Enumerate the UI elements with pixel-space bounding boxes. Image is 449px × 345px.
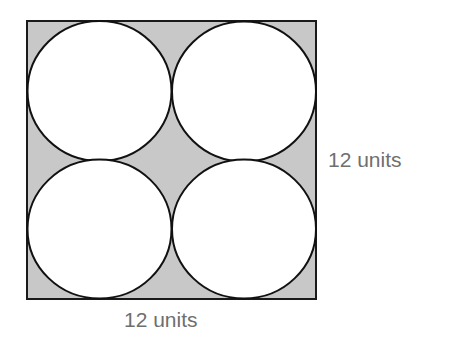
side-length-label-bottom: 12 units — [124, 308, 198, 332]
circle-bottom-right — [172, 160, 316, 299]
side-length-label-right: 12 units — [328, 148, 402, 172]
square-with-circles-figure — [0, 0, 449, 345]
circle-bottom-left — [28, 160, 172, 299]
circle-top-left — [28, 21, 172, 161]
circle-top-right — [172, 22, 316, 162]
